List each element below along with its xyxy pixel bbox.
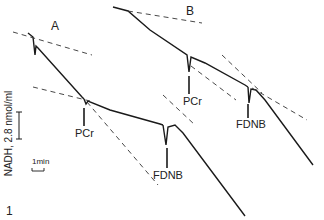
label-b-pcr: PCr bbox=[183, 95, 202, 107]
panel-a-label: A bbox=[51, 19, 59, 33]
time-scale-bar bbox=[32, 168, 44, 171]
kinetic-traces-figure bbox=[0, 0, 324, 220]
label-a-fdnb: FDNB bbox=[153, 169, 183, 181]
time-scale-label: 1min bbox=[32, 157, 49, 166]
y-axis-label: NADH, 2.8 nmol/ml bbox=[3, 84, 14, 184]
trace-b bbox=[113, 7, 313, 165]
label-b-fdnb: FDNB bbox=[236, 118, 266, 130]
trace-a bbox=[13, 32, 245, 216]
panel-b-label: B bbox=[186, 4, 194, 18]
label-a-pcr: PCr bbox=[75, 127, 94, 139]
corner-mark: 1 bbox=[6, 204, 13, 218]
